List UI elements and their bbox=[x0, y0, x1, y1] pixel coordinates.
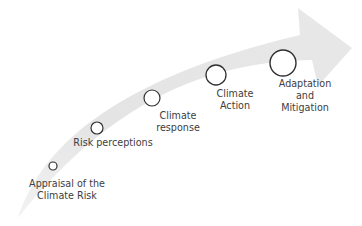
stage-label-climate-response: Climate response bbox=[150, 110, 206, 134]
stage-label-line: Action bbox=[212, 100, 258, 112]
stage-marker-2-icon bbox=[91, 122, 103, 134]
stage-label-risk-perceptions: Risk perceptions bbox=[68, 137, 158, 149]
stage-label-appraisal: Appraisal of the Climate Risk bbox=[24, 178, 110, 202]
stage-marker-5-icon bbox=[270, 50, 296, 76]
stage-label-line: Climate Risk bbox=[24, 190, 110, 202]
stage-label-line: Climate bbox=[212, 88, 258, 100]
stage-label-line: Risk perceptions bbox=[68, 137, 158, 149]
stage-marker-4-icon bbox=[206, 65, 226, 85]
stage-label-line: Adaptation bbox=[275, 78, 335, 90]
stage-marker-3-icon bbox=[144, 90, 160, 106]
stage-label-line: Mitigation bbox=[275, 102, 335, 114]
stage-marker-1-icon bbox=[49, 162, 57, 170]
stage-label-line: Appraisal of the bbox=[24, 178, 110, 190]
stage-label-climate-action: Climate Action bbox=[212, 88, 258, 112]
stage-label-line: Climate bbox=[150, 110, 206, 122]
stage-label-adaptation-mitigation: Adaptation and Mitigation bbox=[275, 78, 335, 114]
stage-label-line: response bbox=[150, 122, 206, 134]
stage-label-line: and bbox=[275, 90, 335, 102]
diagram-canvas: Appraisal of the Climate Risk Risk perce… bbox=[0, 0, 362, 226]
